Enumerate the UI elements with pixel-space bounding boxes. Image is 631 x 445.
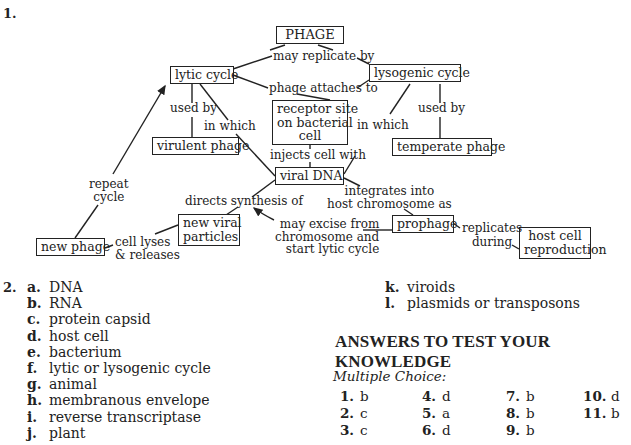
new-viral-line-2: particles xyxy=(183,230,235,244)
node-receptor-site: receptor site on bacterial cell xyxy=(272,100,348,145)
node-lysogenic-cycle: lysogenic cycle xyxy=(369,64,461,82)
list-item: k.viroids xyxy=(385,279,580,295)
mc-answer: 11.b xyxy=(583,405,620,422)
excise-line-1: may excise from xyxy=(275,218,379,231)
mc-answer: 9.b xyxy=(498,422,535,439)
multiple-choice-label: Multiple Choice: xyxy=(333,368,446,384)
node-temperate-phage: temperate phage xyxy=(392,138,492,156)
host-cell-line-1: host cell xyxy=(524,229,586,243)
line-newviral-lyses xyxy=(155,225,178,234)
list-item: l.plasmids or transposons xyxy=(385,295,580,311)
replicates-line-1: replicates xyxy=(462,221,522,235)
question-2-list-right: k.viroids l.plasmids or transposons xyxy=(385,279,580,311)
node-new-phage: new phage xyxy=(36,238,105,256)
mc-column-3: 7.b 8.b 9.b xyxy=(498,388,535,439)
answers-heading: ANSWERS TO TEST YOUR KNOWLEDGE xyxy=(335,332,631,372)
list-item: h.membranous envelope xyxy=(27,392,211,408)
host-cell-line-2: reproduction xyxy=(524,243,586,257)
mc-answer: 10.d xyxy=(583,388,620,405)
link-cell-lyses: cell lyses & releases xyxy=(115,236,180,262)
link-used-by-lytic: used by xyxy=(170,102,217,115)
question-2-number: 2. xyxy=(3,280,17,295)
link-may-replicate-by: may replicate by xyxy=(273,50,374,63)
lyses-line-2: & releases xyxy=(115,249,180,262)
list-item: e.bacterium xyxy=(27,344,211,360)
list-item: d.host cell xyxy=(27,328,211,344)
node-viral-dna: viral DNA xyxy=(275,167,344,185)
link-injects-cell-with: injects cell with xyxy=(270,149,366,162)
line-newphage-repeat xyxy=(75,205,98,238)
list-item: b.RNA xyxy=(27,295,211,311)
mc-answer: 8.b xyxy=(498,405,535,422)
link-used-by-lysogenic: used by xyxy=(418,102,465,115)
link-in-which-lysogenic: in which xyxy=(357,119,409,132)
arrow-repeat-lytic xyxy=(113,86,165,174)
node-lytic-cycle: lytic cycle xyxy=(170,66,234,84)
mc-answer: 2.c xyxy=(332,405,369,422)
list-item: c.protein capsid xyxy=(27,311,211,327)
node-host-cell-reproduction: host cell reproduction xyxy=(519,227,591,259)
node-virulent-phage: virulent phage xyxy=(152,137,239,155)
node-phage: PHAGE xyxy=(276,26,344,44)
replicates-line-2: during xyxy=(462,235,522,249)
receptor-line-2: on bacterial xyxy=(277,116,343,130)
excise-line-3: start lytic cycle xyxy=(275,243,379,256)
list-item: j.plant xyxy=(27,425,211,441)
arrow-excise-to-directs xyxy=(254,208,274,220)
mc-answer: 6.d xyxy=(414,422,451,439)
receptor-line-1: receptor site xyxy=(277,102,343,116)
link-phage-attaches-to: phage attaches to xyxy=(269,82,378,95)
link-repeat-cycle: repeat cycle xyxy=(89,178,129,204)
list-item: g.animal xyxy=(27,376,211,392)
mc-answer: 5.a xyxy=(414,405,451,422)
link-may-excise: may excise from chromosome and start lyt… xyxy=(275,218,379,256)
repeat-line-2: cycle xyxy=(89,191,129,204)
link-directs-synthesis-of: directs synthesis of xyxy=(185,195,303,208)
question-2-list-left: a.DNA b.RNA c.protein capsid d.host cell… xyxy=(27,279,211,441)
link-in-which-lytic: in which xyxy=(204,120,256,133)
line-lysogenic-inwhich xyxy=(390,84,410,114)
list-item: i.reverse transcriptase xyxy=(27,409,211,425)
new-viral-line-1: new viral xyxy=(183,216,235,230)
mc-answer: 3.c xyxy=(332,422,369,439)
integrates-line-2: host chromosome as xyxy=(327,198,452,211)
mc-answer: 1.b xyxy=(332,388,369,405)
line-to-lytic xyxy=(233,56,272,69)
mc-answer: 7.b xyxy=(498,388,535,405)
mc-answer: 4.d xyxy=(414,388,451,405)
mc-column-1: 1.b 2.c 3.c xyxy=(332,388,369,439)
node-new-viral-particles: new viral particles xyxy=(178,214,240,246)
link-replicates-during: replicates during xyxy=(462,221,522,249)
receptor-line-3: cell xyxy=(277,129,343,143)
link-integrates-into: integrates into host chromosome as xyxy=(327,185,452,211)
list-item: a.DNA xyxy=(27,279,211,295)
node-prophage: prophage xyxy=(392,215,454,233)
list-item: f.lytic or lysogenic cycle xyxy=(27,360,211,376)
mc-column-2: 4.d 5.a 6.d xyxy=(414,388,451,439)
mc-column-4: 10.d 11.b xyxy=(583,388,620,422)
